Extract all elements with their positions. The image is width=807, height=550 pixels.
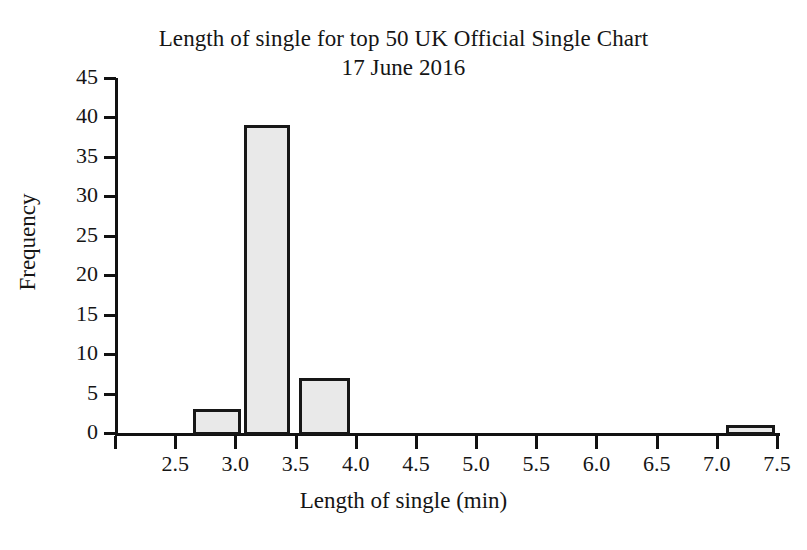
x-tick-2 [114, 436, 117, 449]
x-tick-6.5 [656, 436, 659, 449]
x-axis-title: Length of single (min) [0, 487, 807, 515]
y-tick-30 [104, 195, 116, 198]
x-tick-5.5 [535, 436, 538, 449]
histogram-bar [726, 425, 774, 435]
y-tick-20 [104, 274, 116, 277]
y-tick-40 [104, 116, 116, 119]
x-tick-2.5 [174, 436, 177, 449]
y-tick-label-25: 25 [52, 224, 98, 246]
y-tick-35 [104, 156, 116, 159]
x-tick-label-6.0: 6.0 [566, 452, 626, 476]
y-tick-label-35: 35 [52, 145, 98, 167]
x-tick-7 [716, 436, 719, 449]
y-axis-title: Frequency [14, 152, 42, 332]
x-tick-label-6.5: 6.5 [627, 452, 687, 476]
histogram-bar [244, 125, 290, 435]
y-tick-label-40: 40 [52, 105, 98, 127]
y-tick-25 [104, 235, 116, 238]
y-tick-45 [104, 77, 116, 80]
x-tick-3.5 [295, 436, 298, 449]
y-tick-label-15: 15 [52, 303, 98, 325]
plot-area: 051015202530354045 2.53.03.54.04.55.05.5… [0, 0, 807, 550]
y-tick-label-20: 20 [52, 263, 98, 285]
x-tick-4 [355, 436, 358, 449]
y-tick-label-30: 30 [52, 184, 98, 206]
x-tick-label-7.0: 7.0 [687, 452, 747, 476]
x-tick-7.5 [776, 436, 779, 449]
x-tick-label-5.5: 5.5 [506, 452, 566, 476]
x-tick-label-7.5: 7.5 [747, 452, 807, 476]
histogram-bar [299, 378, 350, 435]
x-tick-label-4.0: 4.0 [326, 452, 386, 476]
x-tick-label-5.0: 5.0 [446, 452, 506, 476]
y-tick-5 [104, 393, 116, 396]
y-tick-10 [104, 353, 116, 356]
y-tick-label-10: 10 [52, 342, 98, 364]
y-axis-line [115, 78, 118, 436]
histogram-figure: Length of single for top 50 UK Official … [0, 0, 807, 550]
x-tick-6 [595, 436, 598, 449]
x-tick-label-2.5: 2.5 [145, 452, 205, 476]
x-tick-label-4.5: 4.5 [386, 452, 446, 476]
x-tick-3 [234, 436, 237, 449]
x-tick-4.5 [415, 436, 418, 449]
y-tick-label-5: 5 [52, 382, 98, 404]
y-tick-label-45: 45 [52, 66, 98, 88]
x-tick-label-3.5: 3.5 [266, 452, 326, 476]
y-tick-15 [104, 314, 116, 317]
histogram-bar [193, 409, 241, 435]
y-tick-0 [104, 432, 116, 435]
x-tick-label-3.0: 3.0 [205, 452, 265, 476]
y-tick-label-0: 0 [52, 421, 98, 443]
x-tick-5 [475, 436, 478, 449]
